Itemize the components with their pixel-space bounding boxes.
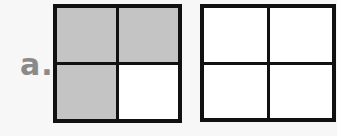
fraction-grid-1 xyxy=(53,4,182,123)
grid-cell-empty[interactable] xyxy=(270,65,333,119)
grid-cell-empty xyxy=(119,65,178,119)
grid-cell-shaded xyxy=(57,65,116,119)
grid-cell-shaded xyxy=(57,8,116,62)
grid-cell-empty[interactable] xyxy=(204,8,267,62)
problem-label: a. xyxy=(20,50,54,80)
grid-cell-shaded xyxy=(119,8,178,62)
grid-cell-empty[interactable] xyxy=(204,65,267,119)
fraction-grid-2 xyxy=(200,4,336,122)
grid-cell-empty[interactable] xyxy=(270,8,333,62)
